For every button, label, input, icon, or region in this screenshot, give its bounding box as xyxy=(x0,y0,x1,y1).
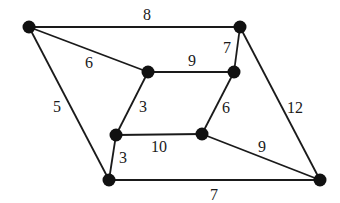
edge-B-H xyxy=(240,27,320,180)
edge-E-F xyxy=(116,134,202,135)
graph-node-H xyxy=(314,174,327,187)
edge-weight-label: 3 xyxy=(119,149,127,166)
edge-weight-label: 5 xyxy=(53,98,61,115)
edge-layer xyxy=(29,27,320,180)
graph-node-A xyxy=(23,21,36,34)
weight-label-layer: 86571293610397 xyxy=(53,6,303,203)
graph-node-D xyxy=(228,66,241,79)
edge-B-D xyxy=(234,27,240,72)
graph-node-B xyxy=(234,21,247,34)
edge-weight-label: 12 xyxy=(287,99,303,116)
graph-node-C xyxy=(142,66,155,79)
edge-E-G xyxy=(109,135,116,180)
edge-weight-label: 9 xyxy=(258,138,266,155)
graph-node-G xyxy=(103,174,116,187)
edge-weight-label: 8 xyxy=(143,6,151,23)
graph-node-F xyxy=(196,128,209,141)
edge-weight-label: 7 xyxy=(223,39,231,56)
edge-weight-label: 10 xyxy=(151,138,167,155)
edge-A-G xyxy=(29,27,109,180)
edge-weight-label: 3 xyxy=(139,98,147,115)
edge-weight-label: 9 xyxy=(188,52,196,69)
graph-node-E xyxy=(110,129,123,142)
edge-weight-label: 6 xyxy=(222,99,230,116)
weighted-graph-diagram: 86571293610397 xyxy=(0,0,340,203)
edge-weight-label: 6 xyxy=(85,54,93,71)
edge-weight-label: 7 xyxy=(210,186,218,203)
